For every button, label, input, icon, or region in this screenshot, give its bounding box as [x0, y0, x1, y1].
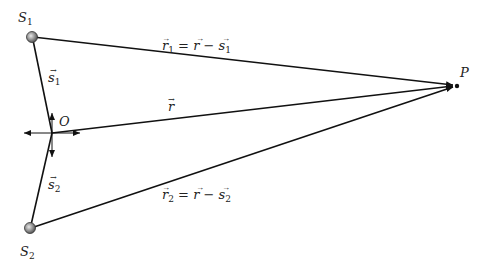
svg-text:→: →: [196, 183, 204, 192]
source-s2-icon: [25, 223, 36, 234]
svg-text:→: →: [222, 183, 230, 192]
label-p: P: [459, 65, 469, 80]
vector-r: [52, 86, 453, 133]
svg-text:→: →: [50, 173, 57, 182]
source-s1-icon: [27, 32, 38, 43]
svg-text:→: →: [162, 183, 170, 192]
point-p-icon: [455, 84, 459, 88]
label-o: O: [59, 114, 70, 129]
label-vec-s2: s2 →: [48, 173, 60, 194]
label-vec-r2: r2 = r − s2 → → →: [162, 183, 231, 204]
svg-text:→: →: [222, 34, 230, 43]
svg-text:→: →: [168, 95, 175, 104]
label-vec-r: r →: [168, 95, 175, 114]
svg-text:→: →: [162, 34, 170, 43]
two-source-diagram: S1 S2 O P s1 → s2 → r → r1 = r − s1 → → …: [0, 0, 486, 269]
vector-r2: [31, 87, 453, 228]
vector-r1: [33, 37, 453, 85]
svg-text:→: →: [196, 34, 204, 43]
svg-text:→: →: [50, 66, 57, 75]
label-vec-s1: s1 →: [48, 66, 60, 87]
vector-s1: [33, 40, 52, 133]
label-s1: S1: [18, 10, 33, 27]
label-vec-r1: r1 = r − s1 → → →: [162, 34, 231, 55]
label-s2: S2: [20, 244, 35, 261]
